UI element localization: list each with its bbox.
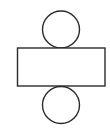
shape-diagram-svg bbox=[0, 0, 110, 131]
diagram-canvas bbox=[0, 0, 110, 131]
bottom-circle bbox=[43, 87, 80, 124]
center-rectangle bbox=[18, 48, 106, 86]
top-circle bbox=[43, 11, 80, 48]
